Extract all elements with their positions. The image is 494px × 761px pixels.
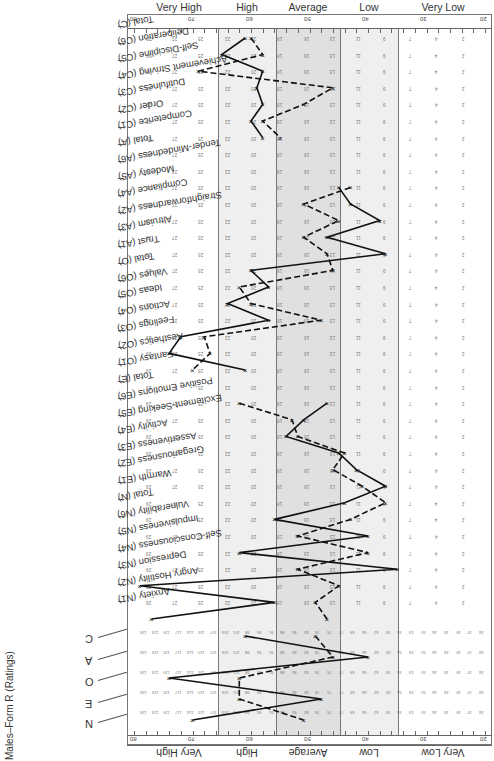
score-marker-x-icon: × <box>260 134 265 143</box>
score-marker-x-icon: × <box>249 34 254 43</box>
score-marker-x-icon: × <box>190 366 195 375</box>
score-marker-x-icon: × <box>243 632 248 641</box>
score-marker-x-icon: × <box>360 482 365 491</box>
score-marker-x-icon: × <box>167 674 172 683</box>
score-marker-x-icon: × <box>383 482 388 491</box>
score-marker-x-icon: × <box>325 250 330 259</box>
score-marker-x-icon: × <box>266 283 271 292</box>
score-marker-x-icon: × <box>325 233 330 242</box>
profile-line-solid <box>169 636 368 720</box>
score-marker-x-icon: × <box>237 399 242 408</box>
score-marker-x-icon: × <box>377 217 382 226</box>
score-marker-x-icon: × <box>278 134 283 143</box>
score-marker-x-icon: × <box>336 582 341 591</box>
score-marker-x-icon: × <box>272 515 277 524</box>
score-marker-x-icon: × <box>249 300 254 309</box>
score-marker-x-icon: × <box>208 349 213 358</box>
profile-sheet: Very High High Average Low Very Low Very… <box>0 0 494 761</box>
score-marker-x-icon: × <box>260 100 265 109</box>
score-marker-x-icon: × <box>301 100 306 109</box>
score-marker-x-icon: × <box>313 598 318 607</box>
score-marker-x-icon: × <box>348 515 353 524</box>
score-marker-x-icon: × <box>196 67 201 76</box>
score-marker-x-icon: × <box>395 565 400 574</box>
score-marker-x-icon: × <box>260 117 265 126</box>
score-marker-x-icon: × <box>348 200 353 209</box>
score-marker-x-icon: × <box>383 250 388 259</box>
score-marker-x-icon: × <box>295 565 300 574</box>
score-marker-x-icon: × <box>330 466 335 475</box>
score-marker-x-icon: × <box>137 582 142 591</box>
score-marker-x-icon: × <box>301 416 306 425</box>
score-marker-x-icon: × <box>295 532 300 541</box>
score-marker-x-icon: × <box>301 200 306 209</box>
score-marker-x-icon: × <box>330 653 335 662</box>
score-marker-x-icon: × <box>178 333 183 342</box>
score-marker-x-icon: × <box>225 300 230 309</box>
score-marker-x-icon: × <box>342 499 347 508</box>
score-marker-x-icon: × <box>249 117 254 126</box>
score-marker-x-icon: × <box>319 316 324 325</box>
score-marker-x-icon: × <box>319 695 324 704</box>
score-marker-x-icon: × <box>284 432 289 441</box>
score-marker-x-icon: × <box>366 532 371 541</box>
score-marker-x-icon: × <box>249 266 254 275</box>
score-marker-x-icon: × <box>330 266 335 275</box>
score-marker-x-icon: × <box>366 653 371 662</box>
profile-line-dashed <box>193 187 351 370</box>
score-marker-x-icon: × <box>260 51 265 60</box>
score-marker-x-icon: × <box>149 615 154 624</box>
score-marker-x-icon: × <box>167 349 172 358</box>
score-marker-x-icon: × <box>266 316 271 325</box>
score-marker-x-icon: × <box>325 615 330 624</box>
score-marker-x-icon: × <box>348 183 353 192</box>
profile-lines: ××××××××××××××××××××××××××××××××××××××××… <box>0 0 494 761</box>
score-marker-x-icon: × <box>301 233 306 242</box>
score-marker-x-icon: × <box>366 549 371 558</box>
score-marker-x-icon: × <box>260 67 265 76</box>
score-marker-x-icon: × <box>272 598 277 607</box>
score-marker-x-icon: × <box>219 51 224 60</box>
score-marker-x-icon: × <box>336 217 341 226</box>
score-marker-x-icon: × <box>289 416 294 425</box>
score-marker-x-icon: × <box>254 84 259 93</box>
score-marker-x-icon: × <box>237 674 242 683</box>
score-marker-x-icon: × <box>342 449 347 458</box>
score-marker-x-icon: × <box>237 283 242 292</box>
score-marker-x-icon: × <box>237 549 242 558</box>
score-marker-x-icon: × <box>325 399 330 408</box>
score-marker-x-icon: × <box>301 716 306 725</box>
score-marker-x-icon: × <box>295 432 300 441</box>
score-marker-x-icon: × <box>336 449 341 458</box>
profile-line-solid <box>169 187 385 370</box>
score-marker-x-icon: × <box>243 34 248 43</box>
score-marker-x-icon: × <box>313 632 318 641</box>
score-marker-x-icon: × <box>330 84 335 93</box>
score-marker-x-icon: × <box>383 499 388 508</box>
score-marker-x-icon: × <box>190 716 195 725</box>
score-marker-x-icon: × <box>354 466 359 475</box>
score-marker-x-icon: × <box>202 333 207 342</box>
profile-line-solid <box>140 403 397 619</box>
score-marker-x-icon: × <box>237 695 242 704</box>
score-marker-x-icon: × <box>243 366 248 375</box>
